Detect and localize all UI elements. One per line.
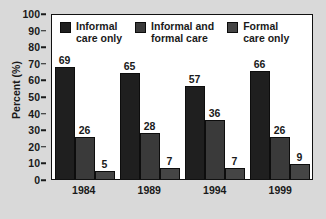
plot-area: Informal care onlyInformal and formal ca… <box>51 14 313 180</box>
y-axis-tick-labels: 0102030405060708090100 <box>14 14 46 180</box>
y-axis-tick-mark <box>41 30 46 32</box>
bar-value-label: 9 <box>297 151 303 163</box>
y-axis-tick-label: 40 <box>28 108 40 120</box>
y-axis-tick-mark <box>41 96 46 98</box>
bar-value-label: 57 <box>189 73 201 85</box>
bar-group: 57367 <box>182 15 247 179</box>
y-axis-tick-mark <box>41 113 46 115</box>
y-axis-tick-label: 30 <box>28 124 40 136</box>
bar[interactable] <box>120 73 140 179</box>
bar[interactable] <box>160 168 180 179</box>
bar-value-label: 36 <box>209 107 221 119</box>
bar-column: 7 <box>225 15 245 179</box>
bar-column: 7 <box>160 15 180 179</box>
bar-group: 66269 <box>247 15 312 179</box>
bar[interactable] <box>95 171 115 179</box>
chart-figure: Percent (%) 0102030405060708090100 Infor… <box>0 0 326 219</box>
x-axis-tick-label: 1984 <box>51 184 117 196</box>
x-axis-tick-label: 1999 <box>248 184 314 196</box>
bar-column: 57 <box>185 15 205 179</box>
bar-value-label: 5 <box>102 158 108 170</box>
y-axis-tick-label: 10 <box>28 157 40 169</box>
y-axis-tick-label: 50 <box>28 91 40 103</box>
bar[interactable] <box>55 67 75 179</box>
bar-column: 28 <box>140 15 160 179</box>
bar-value-label: 26 <box>274 124 286 136</box>
bar[interactable] <box>185 86 205 179</box>
bar-value-label: 66 <box>254 58 266 70</box>
x-axis-tick-labels: 1984198919941999 <box>51 184 313 196</box>
y-axis-tick-mark <box>41 80 46 82</box>
y-axis-tick-mark <box>41 146 46 148</box>
bar-column: 26 <box>75 15 95 179</box>
bar[interactable] <box>140 133 160 179</box>
y-axis-tick-mark <box>41 129 46 131</box>
bar-value-label: 26 <box>79 124 91 136</box>
x-axis-tick-label: 1989 <box>117 184 183 196</box>
y-axis-tick-label: 90 <box>28 25 40 37</box>
bar-value-label: 65 <box>124 60 136 72</box>
bar[interactable] <box>270 137 290 179</box>
x-axis-tick-label: 1994 <box>182 184 248 196</box>
y-axis-tick-label: 20 <box>28 141 40 153</box>
y-axis-tick-label: 100 <box>22 8 40 20</box>
bar-value-label: 69 <box>59 54 71 66</box>
bar[interactable] <box>75 137 95 179</box>
bar-column: 5 <box>95 15 115 179</box>
bar-value-label: 28 <box>144 120 156 132</box>
y-axis-tick-mark <box>41 13 46 15</box>
bar-group: 65287 <box>117 15 182 179</box>
y-axis-tick-mark <box>41 63 46 65</box>
bar[interactable] <box>225 168 245 179</box>
bar-column: 26 <box>270 15 290 179</box>
y-axis-tick-mark <box>41 163 46 165</box>
y-axis-tick-label: 70 <box>28 58 40 70</box>
bar-column: 66 <box>250 15 270 179</box>
bar-column: 69 <box>55 15 75 179</box>
bar-group: 69265 <box>52 15 117 179</box>
bar-value-label: 7 <box>167 155 173 167</box>
bar-groups: 69265652875736766269 <box>52 15 312 179</box>
y-axis-tick-label: 60 <box>28 74 40 86</box>
y-axis-tick-mark <box>41 179 46 181</box>
bar-column: 65 <box>120 15 140 179</box>
bar[interactable] <box>205 120 225 179</box>
y-axis-tick-label: 0 <box>34 174 40 186</box>
bar[interactable] <box>290 164 310 179</box>
bar[interactable] <box>250 71 270 179</box>
bar-value-label: 7 <box>232 155 238 167</box>
bar-column: 9 <box>290 15 310 179</box>
y-axis-tick-mark <box>41 46 46 48</box>
bar-column: 36 <box>205 15 225 179</box>
y-axis-tick-label: 80 <box>28 41 40 53</box>
